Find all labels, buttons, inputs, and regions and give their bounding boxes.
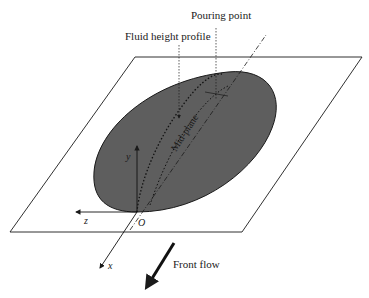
x-axis bbox=[100, 212, 137, 268]
fluid-region bbox=[94, 72, 276, 212]
front-flow-label: Front flow bbox=[173, 258, 220, 270]
z-axis-label: z bbox=[83, 215, 88, 226]
y-axis-label: y bbox=[125, 151, 131, 162]
x-axis-label: x bbox=[107, 260, 113, 271]
front-flow-arrow bbox=[148, 243, 174, 285]
origin-label: O bbox=[138, 217, 145, 228]
fluid-height-profile-label: Fluid height profile bbox=[125, 30, 211, 42]
fluid-flow-diagram: Pouring point Fluid height profile Mid-p… bbox=[0, 0, 369, 298]
pouring-point-label: Pouring point bbox=[191, 9, 251, 21]
